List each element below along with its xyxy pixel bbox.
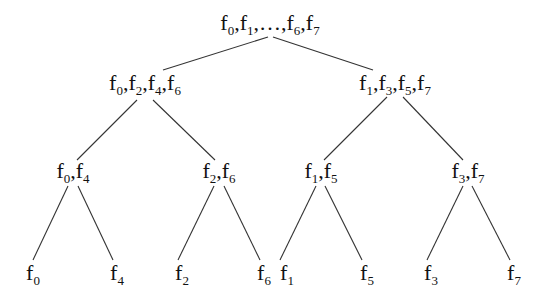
tree-node-level2: f2,f6: [202, 160, 235, 182]
node-subscript: 3: [459, 171, 466, 186]
node-subscript: 3: [386, 83, 393, 98]
tree-edge: [427, 186, 463, 260]
node-subscript: 1: [247, 23, 254, 38]
node-subscript: 6: [229, 171, 236, 186]
node-symbol: f: [324, 158, 331, 183]
node-subscript: 7: [313, 23, 320, 38]
tree-edge: [273, 37, 373, 70]
node-subscript: 7: [514, 273, 521, 288]
node-subscript: 5: [367, 273, 374, 288]
node-symbol: f: [128, 70, 135, 95]
node-subscript: 3: [431, 273, 438, 288]
node-subscript: 6: [174, 83, 181, 98]
node-symbol: f: [148, 70, 155, 95]
tree-node-leaf: f4: [110, 262, 124, 284]
node-subscript: 2: [136, 83, 143, 98]
node-symbol: f: [306, 10, 313, 35]
tree-node-leaf: f0: [26, 262, 40, 284]
node-subscript: 5: [331, 171, 338, 186]
tree-node-level1: f1,f3,f5,f7: [359, 72, 431, 94]
node-subscript: 1: [287, 273, 294, 288]
tree-edges: [0, 0, 542, 296]
tree-edge: [224, 186, 260, 260]
node-symbol: f: [222, 158, 229, 183]
tree-node-level1: f0,f2,f4,f6: [109, 72, 181, 94]
node-subscript: 7: [478, 171, 485, 186]
tree-edge: [403, 97, 463, 160]
tree-edge: [178, 186, 214, 260]
tree-node-level2: f3,f7: [451, 160, 484, 182]
tree-edge: [472, 186, 510, 260]
tree-node-leaf: f5: [360, 262, 374, 284]
node-symbol: …: [259, 10, 281, 35]
node-symbol: f: [76, 158, 83, 183]
node-subscript: 1: [366, 83, 373, 98]
tree-node-root: f0,f1,…,f6,f7: [220, 12, 319, 34]
node-subscript: 2: [210, 171, 217, 186]
tree-edge: [33, 186, 68, 260]
node-subscript: 0: [228, 23, 235, 38]
tree-edge: [77, 100, 137, 160]
node-subscript: 6: [294, 23, 301, 38]
node-symbol: f: [240, 10, 247, 35]
tree-node-leaf: f6: [257, 262, 271, 284]
tree-edge: [280, 186, 316, 260]
node-subscript: 0: [116, 83, 123, 98]
node-subscript: 0: [64, 171, 71, 186]
node-subscript: 6: [264, 273, 271, 288]
node-symbol: f: [378, 70, 385, 95]
node-subscript: 2: [182, 273, 189, 288]
node-symbol: f: [398, 70, 405, 95]
node-subscript: 0: [33, 273, 40, 288]
tree-edge: [163, 37, 268, 70]
tree-node-leaf: f3: [424, 262, 438, 284]
tree-node-level2: f0,f4: [56, 160, 89, 182]
tree-edge: [153, 100, 215, 160]
node-subscript: 5: [405, 83, 412, 98]
node-subscript: 4: [83, 171, 90, 186]
node-symbol: f: [471, 158, 478, 183]
tree-edge: [78, 186, 113, 260]
tree-node-leaf: f2: [175, 262, 189, 284]
tree-node-level2: f1,f5: [304, 160, 337, 182]
node-subscript: 1: [312, 171, 319, 186]
node-subscript: 4: [155, 83, 162, 98]
node-subscript: 4: [117, 273, 124, 288]
tree-edge: [325, 186, 362, 260]
tree-edge: [324, 97, 387, 160]
tree-node-leaf: f7: [507, 262, 521, 284]
node-subscript: 7: [424, 83, 431, 98]
tree-node-leaf: f1: [280, 262, 294, 284]
